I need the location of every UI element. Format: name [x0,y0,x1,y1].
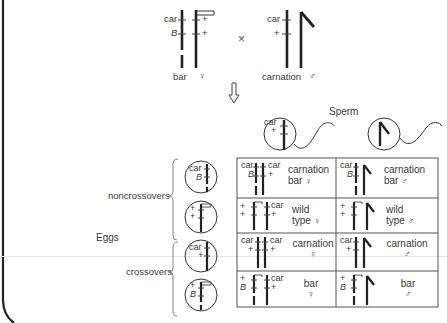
down-arrow-icon [227,82,241,104]
female-symbol: ♀ [199,71,206,81]
phenotype-male: carnation ♂ [382,238,432,260]
egg-locus-label: B [190,289,196,299]
cell-locus: + [346,244,351,254]
cross-symbol: × [238,32,245,46]
phenotype-male: carnation bar ♂ [384,164,425,187]
phenotype-female: carnation bar ♀ [288,164,329,187]
male-symbol: ♂ [309,71,316,81]
locus-label: + [202,13,208,24]
cell-locus: + [268,169,273,179]
cell-locus: + [340,209,345,219]
egg-group-braces [168,158,180,318]
cell-locus: + [240,209,245,219]
cell-chromosomes [253,163,266,195]
locus-label: B [171,27,177,38]
phenotype-label: bar [173,71,187,82]
carnation-male-chromosomes [260,0,320,75]
cell-locus: + [271,209,276,219]
bar-female-chromosomes [160,0,220,75]
phenotype-female: bar ♀ [296,278,326,300]
locus-label: + [274,27,280,38]
phenotype-male: bar ♂ [393,278,423,300]
egg-locus-label: + [190,211,195,221]
phenotype-female: wild type ♀ [292,204,320,227]
egg-locus-label: + [198,250,203,260]
sperm-y [364,112,446,158]
cell-locus: + [270,244,275,254]
phenotype-label: carnation [262,71,301,82]
egg-group-label-crossovers: crossovers [126,266,172,277]
locus-label: car [267,13,280,24]
sperm-locus-label: + [271,125,276,135]
cell-locus: + [271,282,276,292]
cell-locus: B [347,169,353,179]
cell-locus: B [248,169,254,179]
egg-group-label-noncrossovers: noncrossovers [108,190,170,201]
locus-label: + [202,27,208,38]
egg-locus-label: B [196,172,202,182]
phenotype-female: carnation ♀ [289,238,337,260]
cell-locus: + [248,244,253,254]
eggs-title: Eggs [96,232,119,243]
phenotype-male: wild type ♂ [386,204,414,227]
cell-locus: B [340,282,346,292]
cell-locus: B [240,282,246,292]
locus-label: car [164,13,177,24]
